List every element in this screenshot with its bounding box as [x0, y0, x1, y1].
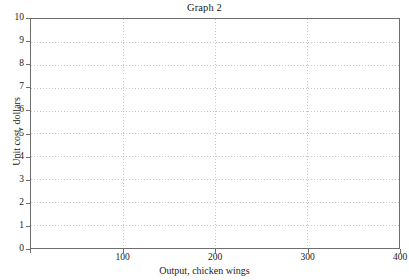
y-axis-tick-mark	[26, 64, 30, 65]
y-axis-tick-mark	[26, 41, 30, 42]
plot-area	[30, 18, 400, 249]
y-axis-tick-label: 0	[2, 244, 24, 254]
x-axis-tick-label: 200	[195, 252, 235, 263]
y-axis-tick-mark	[26, 87, 30, 88]
chart-figure: Graph 2 012345678910 100200300400 Output…	[0, 0, 409, 280]
x-axis-tick-label: 400	[380, 252, 409, 263]
y-axis-tick-label: 1	[2, 221, 24, 231]
y-axis-tick-mark	[26, 18, 30, 19]
chart-title: Graph 2	[0, 1, 409, 14]
y-axis-tick-mark	[26, 226, 30, 227]
x-axis-tick-label: 300	[288, 252, 328, 263]
y-axis-tick-label: 9	[2, 36, 24, 46]
gridlines	[31, 19, 399, 248]
x-axis-tick-label: 100	[103, 252, 143, 263]
y-axis-tick-mark	[26, 110, 30, 111]
x-axis-label: Output, chicken wings	[0, 265, 409, 277]
y-axis-tick-mark	[26, 134, 30, 135]
y-axis-tick-mark	[26, 203, 30, 204]
y-axis-label: Unit cost, dollars	[11, 62, 22, 202]
y-axis-tick-mark	[26, 180, 30, 181]
y-axis-tick-label: 10	[2, 13, 24, 23]
x-axis-tick-mark	[30, 249, 31, 253]
y-axis-tick-mark	[26, 157, 30, 158]
